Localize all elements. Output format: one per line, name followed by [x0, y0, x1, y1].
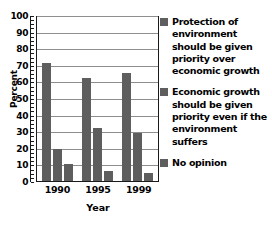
y-minor-tick — [31, 149, 34, 150]
y-minor-tick — [31, 82, 34, 83]
bars-container — [37, 16, 158, 181]
y-tick-label: 10 — [16, 161, 28, 170]
y-minor-tick — [31, 95, 34, 96]
y-minor-tick — [31, 58, 34, 59]
y-minor-tick — [31, 157, 34, 158]
y-minor-tick — [31, 78, 34, 79]
y-minor-tick — [31, 33, 34, 34]
y-minor-tick — [31, 128, 34, 129]
y-minor-tick — [31, 49, 34, 50]
bar-chart-figure: Percent 1009080706050403020100 199019951… — [0, 0, 272, 225]
bar — [42, 63, 51, 181]
y-minor-tick — [31, 45, 34, 46]
x-tick-label: 1995 — [85, 184, 110, 195]
plot-panel — [37, 16, 159, 182]
y-axis-tick-labels: 1009080706050403020100 — [4, 16, 28, 182]
legend-swatch-icon — [160, 18, 168, 26]
bar — [104, 171, 113, 181]
legend-swatch-icon — [160, 88, 168, 96]
legend-entry: Economic growth should be given priority… — [160, 86, 272, 147]
y-minor-tick — [31, 87, 34, 88]
y-minor-tick — [31, 165, 34, 166]
bar — [122, 73, 131, 181]
y-minor-tick — [31, 120, 34, 121]
y-minor-tick — [31, 161, 34, 162]
y-minor-tick — [31, 37, 34, 38]
y-minor-tick — [31, 178, 34, 179]
bar — [82, 78, 91, 181]
legend-label: Economic growth should be given priority… — [172, 86, 272, 147]
bar — [133, 133, 142, 181]
legend-swatch-icon — [160, 159, 168, 167]
y-minor-tick — [31, 153, 34, 154]
x-axis-label: Year — [37, 202, 159, 213]
y-minor-tick — [31, 16, 34, 17]
y-tick-label: 90 — [16, 28, 28, 37]
y-tick-label: 0 — [22, 178, 28, 187]
legend-label: Protection of environment should be give… — [172, 16, 272, 77]
y-minor-tick — [31, 174, 34, 175]
y-minor-tick — [31, 145, 34, 146]
legend-entry: Protection of environment should be give… — [160, 16, 272, 77]
y-minor-tick — [31, 111, 34, 112]
y-axis — [30, 16, 37, 182]
plot-region: Percent 1009080706050403020100 199019951… — [0, 0, 160, 225]
y-minor-tick — [31, 116, 34, 117]
y-minor-tick — [31, 103, 34, 104]
x-axis-tick-labels: 199019951999 — [37, 184, 159, 195]
legend: Protection of environment should be give… — [160, 16, 272, 178]
legend-entry: No opinion — [160, 157, 272, 169]
y-minor-tick — [31, 182, 34, 183]
y-tick-label: 20 — [16, 144, 28, 153]
y-minor-tick — [31, 132, 34, 133]
y-minor-tick — [31, 28, 34, 29]
y-minor-tick — [31, 141, 34, 142]
y-minor-tick — [31, 136, 34, 137]
y-minor-tick — [31, 53, 34, 54]
y-tick-label: 40 — [16, 111, 28, 120]
y-tick-label: 80 — [16, 45, 28, 54]
y-tick-label: 60 — [16, 78, 28, 87]
y-minor-tick — [31, 70, 34, 71]
x-tick-label: 1999 — [126, 184, 151, 195]
y-minor-tick — [31, 107, 34, 108]
bar — [53, 149, 62, 181]
y-minor-tick — [31, 124, 34, 125]
legend-label: No opinion — [172, 157, 227, 169]
bar — [64, 164, 73, 181]
y-minor-tick — [31, 62, 34, 63]
y-minor-tick — [31, 20, 34, 21]
y-tick-label: 70 — [16, 61, 28, 70]
y-minor-tick — [31, 74, 34, 75]
y-tick-label: 50 — [16, 95, 28, 104]
y-tick-label: 100 — [10, 12, 28, 21]
bar-group — [42, 16, 73, 181]
bar — [144, 173, 153, 181]
y-tick-label: 30 — [16, 128, 28, 137]
y-minor-tick — [31, 170, 34, 171]
bar-group — [122, 16, 153, 181]
y-minor-tick — [31, 66, 34, 67]
y-minor-tick — [31, 24, 34, 25]
y-minor-tick — [31, 91, 34, 92]
bar — [93, 128, 102, 181]
y-minor-tick — [31, 99, 34, 100]
bar-group — [82, 16, 113, 181]
x-tick-label: 1990 — [45, 184, 70, 195]
y-minor-tick — [31, 41, 34, 42]
